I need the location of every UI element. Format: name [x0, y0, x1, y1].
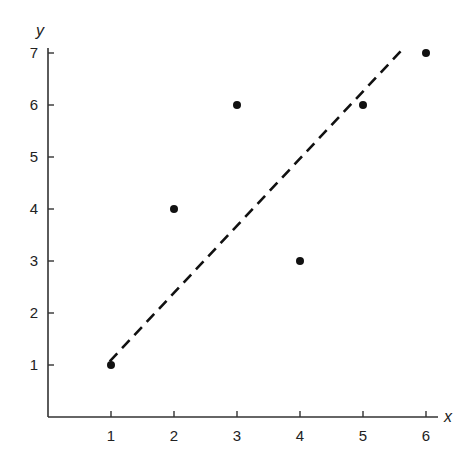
dashed-fit-line [110, 48, 404, 362]
y-tick-label: 4 [30, 200, 38, 217]
x-tick-label: 2 [170, 427, 178, 444]
data-point [170, 205, 178, 213]
data-point [422, 49, 430, 57]
y-tick-label: 6 [30, 96, 38, 113]
x-tick-label: 6 [422, 427, 430, 444]
y-tick-label: 5 [30, 148, 38, 165]
x-tick-label: 3 [233, 427, 241, 444]
y-tick-label: 1 [30, 356, 38, 373]
trend-line [110, 48, 404, 362]
data-points [107, 49, 430, 369]
x-tick-label: 1 [107, 427, 115, 444]
y-tick-label: 2 [30, 304, 38, 321]
data-point [233, 101, 241, 109]
y-axis-label: y [35, 22, 45, 39]
data-point [359, 101, 367, 109]
y-tick-label: 7 [30, 44, 38, 61]
x-axis-label: x [443, 408, 453, 425]
tick-marks: 1234561234567 [30, 44, 431, 444]
data-point [296, 257, 304, 265]
scatter-chart: xy 1234561234567 [0, 0, 472, 461]
axes: xy [35, 22, 453, 425]
x-tick-label: 5 [359, 427, 367, 444]
y-tick-label: 3 [30, 252, 38, 269]
x-tick-label: 4 [296, 427, 304, 444]
data-point [107, 361, 115, 369]
